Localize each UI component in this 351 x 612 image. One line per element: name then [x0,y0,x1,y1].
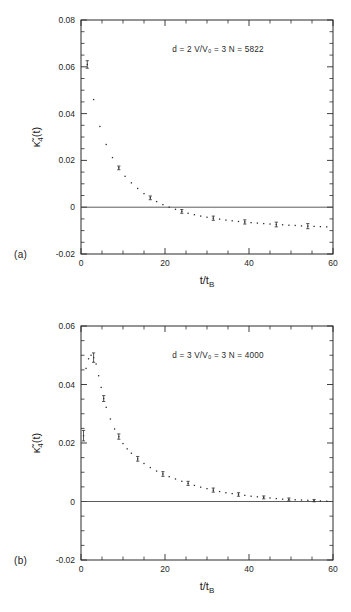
x-tick-label: 60 [328,564,338,574]
data-point [83,435,84,436]
plot-frame [81,20,333,254]
x-tick-label: 20 [160,258,170,268]
data-point [106,407,107,408]
data-point [93,99,94,100]
data-point [276,224,277,225]
panel-a: (a) 0204060-0.0200.020.040.060.08d = 2 V… [0,0,351,306]
data-point [206,488,207,489]
y-axis-title: κ̃4(t) [30,433,45,453]
data-point [194,214,195,215]
data-point [320,226,321,227]
data-point [225,492,226,493]
data-point [250,222,251,223]
data-point [307,226,308,227]
data-point [326,226,327,227]
data-point [131,182,132,183]
x-tick-label: 0 [79,258,84,268]
panel-annotation: d = 3 V/V₀ = 3 N = 4000 [172,351,264,360]
data-point [150,467,151,468]
data-point [137,458,138,459]
data-point [169,207,170,208]
y-tick-label: 0.06 [58,321,75,331]
x-axis-title: t/tB [200,580,215,595]
y-tick-label: -0.02 [56,249,76,259]
data-point [181,211,182,212]
x-tick-label: 40 [244,258,254,268]
data-point [181,481,182,482]
data-point [131,453,132,454]
y-tick-label: 0 [70,497,75,507]
y-tick-label: 0.06 [58,62,75,72]
panel-annotation: d = 2 V/V₀ = 3 N = 5822 [172,45,264,54]
data-point [187,213,188,214]
data-point [213,218,214,219]
data-point [263,497,264,498]
x-tick-label: 40 [244,564,254,574]
data-point [118,436,119,437]
data-point [137,188,138,189]
y-tick-label: 0.02 [58,155,75,165]
data-point [269,497,270,498]
data-point [238,221,239,222]
data-point [276,498,277,499]
x-tick-label: 0 [79,564,84,574]
data-point [313,500,314,501]
data-point [263,223,264,224]
data-point [288,225,289,226]
y-tick-label: -0.02 [56,555,76,565]
data-point [194,485,195,486]
data-point [282,224,283,225]
data-point [295,225,296,226]
y-tick-label: 0 [70,202,75,212]
data-point [175,209,176,210]
data-point [122,443,123,444]
y-tick-label: 0.04 [58,380,75,390]
data-point [257,222,258,223]
data-point [95,363,96,364]
data-point [90,355,91,356]
data-point [250,496,251,497]
data-point [143,463,144,464]
data-point [127,448,128,449]
data-series [82,353,327,502]
data-point [213,489,214,490]
data-point [99,126,100,127]
data-point [98,375,99,376]
data-point [87,64,88,65]
data-point [200,215,201,216]
data-point [200,487,201,488]
data-point [232,220,233,221]
data-point [114,428,115,429]
data-point [206,217,207,218]
data-point [238,494,239,495]
y-axis-title: κ̃4(t) [30,127,45,147]
data-point [225,219,226,220]
data-point [282,499,283,500]
y-tick-label: 0.04 [58,109,75,119]
data-point [110,418,111,419]
y-tick-label: 0.02 [58,438,75,448]
data-point [326,501,327,502]
data-point [307,500,308,501]
data-point [219,218,220,219]
data-series [86,61,328,229]
panel-b: (b) 0204060-0.0200.020.040.06d = 3 V/V₀ … [0,306,351,612]
data-point [101,387,102,388]
data-point [156,470,157,471]
data-point [269,223,270,224]
data-point [244,221,245,222]
data-point [187,483,188,484]
data-point [175,478,176,479]
x-tick-label: 20 [160,564,170,574]
figure-root: (a) 0204060-0.0200.020.040.060.08d = 2 V… [0,0,351,612]
data-point [301,499,302,500]
data-point [103,398,104,399]
data-point [143,193,144,194]
panel-b-plot: 0204060-0.0200.020.040.06d = 3 V/V₀ = 3 … [0,306,351,612]
y-tick-label: 0.08 [58,15,75,25]
data-point [112,157,113,158]
data-point [301,225,302,226]
data-point [219,491,220,492]
x-axis-title: t/tB [200,274,215,289]
data-point [169,476,170,477]
